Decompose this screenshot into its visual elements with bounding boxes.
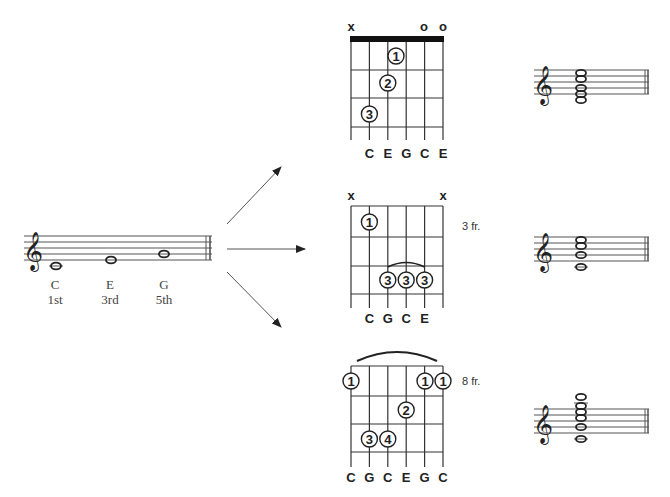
treble-clef-icon: 𝄞 bbox=[23, 232, 43, 272]
finger-dot: 1 bbox=[417, 373, 433, 389]
fret-position-label: 8 fr. bbox=[462, 375, 480, 387]
svg-text:1: 1 bbox=[392, 49, 399, 64]
string-note-label: E bbox=[420, 311, 429, 326]
finger-dot: 3 bbox=[398, 272, 414, 288]
chord-diagram-c-8th-fret: 8 fr. 1 1 1 2 3 4 C G C E G bbox=[343, 352, 480, 485]
chord-notes bbox=[576, 237, 586, 270]
finger-dot: 3 bbox=[361, 431, 377, 447]
arrow-down-icon bbox=[227, 272, 281, 327]
svg-text:𝄞: 𝄞 bbox=[23, 232, 43, 272]
open-string-marker: o bbox=[420, 19, 428, 34]
note-degree: 1st bbox=[47, 292, 63, 307]
finger-dot: 3 bbox=[361, 106, 377, 122]
string-note-label: G bbox=[383, 311, 393, 326]
string-note-label: G bbox=[364, 470, 374, 485]
chord-staff-c-8th-fret: 𝄞 bbox=[533, 394, 649, 445]
chord-staff-open-c: 𝄞 bbox=[533, 66, 649, 106]
string-note-label: C bbox=[420, 146, 430, 161]
svg-text:3: 3 bbox=[403, 273, 410, 288]
chord-notes bbox=[576, 70, 586, 103]
svg-text:1: 1 bbox=[366, 215, 373, 230]
finger-dot: 3 bbox=[380, 272, 396, 288]
svg-text:1: 1 bbox=[421, 374, 428, 389]
finger-dot: 1 bbox=[343, 373, 359, 389]
finger-dot: 3 bbox=[417, 272, 433, 288]
svg-text:3: 3 bbox=[384, 273, 391, 288]
note-degree: 5th bbox=[156, 292, 173, 307]
treble-clef-icon: 𝄞 bbox=[533, 66, 553, 106]
svg-text:1: 1 bbox=[439, 374, 446, 389]
note-degree: 3rd bbox=[101, 292, 119, 307]
svg-text:3: 3 bbox=[421, 273, 428, 288]
note-name: C bbox=[51, 277, 60, 292]
svg-text:2: 2 bbox=[384, 76, 391, 91]
note-c bbox=[49, 263, 63, 270]
string-note-label: C bbox=[438, 470, 448, 485]
fret-position-label: 3 fr. bbox=[462, 220, 480, 232]
note-name: E bbox=[106, 277, 114, 292]
string-note-label: G bbox=[420, 470, 430, 485]
string-note-label: C bbox=[383, 470, 393, 485]
muted-string-marker: x bbox=[347, 188, 355, 203]
treble-clef-icon: 𝄞 bbox=[533, 233, 553, 273]
string-note-label: C bbox=[402, 311, 412, 326]
barre-arc bbox=[357, 352, 437, 361]
string-note-label: G bbox=[401, 146, 411, 161]
chord-diagram-c-3rd-fret: x x 3 fr. 1 3 3 bbox=[347, 188, 480, 326]
string-note-label: E bbox=[402, 470, 411, 485]
arrow-up-icon bbox=[227, 167, 281, 224]
finger-dot: 2 bbox=[398, 402, 414, 418]
svg-text:2: 2 bbox=[403, 403, 410, 418]
finger-dot: 2 bbox=[380, 75, 396, 91]
arpeggio-staff: 𝄞 C E G 1st 3rd 5th bbox=[23, 232, 212, 307]
svg-text:3: 3 bbox=[366, 432, 373, 447]
chord-diagram-open-c: x o o 1 2 3 C E bbox=[347, 19, 447, 161]
c-major-chord-diagram: 𝄞 C E G 1st 3rd 5th x o o bbox=[0, 0, 670, 497]
string-note-label: E bbox=[383, 146, 392, 161]
muted-string-marker: x bbox=[347, 19, 355, 34]
svg-text:1: 1 bbox=[347, 374, 354, 389]
finger-dot: 4 bbox=[380, 431, 396, 447]
nut bbox=[350, 36, 444, 42]
string-note-label: E bbox=[439, 146, 448, 161]
string-note-label: C bbox=[365, 311, 375, 326]
open-string-marker: o bbox=[439, 19, 447, 34]
note-name: G bbox=[159, 277, 168, 292]
svg-text:4: 4 bbox=[384, 432, 392, 447]
string-note-label: C bbox=[365, 146, 375, 161]
treble-clef-icon: 𝄞 bbox=[533, 405, 553, 445]
muted-string-marker: x bbox=[439, 188, 447, 203]
chord-staff-c-3rd-fret: 𝄞 bbox=[533, 233, 649, 273]
finger-dot: 1 bbox=[435, 373, 451, 389]
chord-notes bbox=[576, 394, 586, 442]
finger-dot: 1 bbox=[361, 214, 377, 230]
finger-dot: 1 bbox=[388, 48, 404, 64]
svg-text:3: 3 bbox=[366, 107, 373, 122]
arrows bbox=[227, 167, 305, 327]
string-note-label: C bbox=[346, 470, 356, 485]
